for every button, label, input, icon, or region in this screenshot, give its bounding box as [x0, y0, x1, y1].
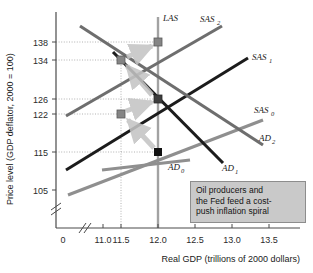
callout-line-3: push inflation spiral: [196, 206, 301, 217]
equilibrium-point-115: [154, 148, 162, 156]
curve-label-sas0: SAS: [254, 105, 269, 115]
x-tick-label-13-5: 13.5: [260, 235, 278, 245]
y-tick-label-105: 105: [33, 186, 48, 196]
cost-push-spiral-callout: Oil producers and the Fed feed a cost- p…: [190, 181, 306, 223]
curve-label-ad2-subscript: 2: [272, 138, 276, 145]
y-tick-labels: 138 134 126 122 115 105: [33, 38, 48, 196]
y-axis-title: Price level (GDP deflator, 2000 = 100): [5, 53, 15, 205]
equilibrium-point-122: [117, 110, 125, 118]
y-tick-label-122: 122: [33, 110, 48, 120]
curve-label-ad0: AD: [167, 162, 180, 172]
x-tick-label-11-0: 11.0: [95, 235, 112, 245]
equilibrium-point-138: [154, 38, 162, 46]
x-tick-label-13-0: 13.0: [223, 235, 241, 245]
equilibrium-point-134: [117, 56, 125, 64]
arrow-122-to-126: [126, 102, 152, 111]
y-tick-label-115: 115: [34, 148, 48, 158]
x-axis-title: Real GDP (trillions of 2000 dollars): [162, 254, 300, 264]
x-tick-label-12-0: 12.0: [149, 235, 167, 245]
curve-label-ad1-subscript: 1: [235, 168, 238, 175]
curve-label-ad0-subscript: 0: [181, 167, 185, 174]
y-tick-label-138: 138: [33, 38, 48, 48]
callout-line-2: the Fed feed a cost-: [196, 196, 301, 207]
x-tick-label-0: 0: [60, 235, 65, 245]
curve-labels: LAS SAS 2 SAS 1 SAS 0 AD 2 AD 0 AD 1: [162, 13, 276, 175]
cost-push-spiral-arrows: [126, 46, 154, 148]
ad-as-cost-push-inflation-chart: 138 134 126 122 115 105 0 11.0 11.5 12.0…: [0, 0, 313, 273]
curve-label-ad2: AD: [258, 133, 271, 143]
equilibrium-markers: [117, 38, 162, 156]
curve-label-las: LAS: [162, 13, 179, 23]
x-tick-label-11-5: 11.5: [113, 235, 130, 245]
curve-label-sas1-subscript: 1: [269, 57, 272, 64]
x-tick-labels: 0 11.0 11.5 12.0 12.5 13.0 13.5: [60, 235, 277, 245]
curve-label-sas2: SAS: [200, 14, 215, 24]
curve-label-sas0-subscript: 0: [271, 110, 275, 117]
y-tick-label-134: 134: [33, 56, 48, 66]
curve-label-sas1: SAS: [252, 52, 267, 62]
chart-plot-area: 138 134 126 122 115 105 0 11.0 11.5 12.0…: [0, 0, 313, 273]
callout-line-1: Oil producers and: [196, 185, 301, 196]
curve-ad2: [80, 26, 263, 145]
y-tick-label-126: 126: [33, 95, 48, 105]
curve-label-ad1: AD: [221, 163, 234, 173]
curve-label-sas2-subscript: 2: [217, 19, 221, 26]
x-tick-label-12-5: 12.5: [186, 235, 204, 245]
arrow-134-to-138: [127, 46, 152, 57]
equilibrium-point-126: [154, 95, 162, 103]
